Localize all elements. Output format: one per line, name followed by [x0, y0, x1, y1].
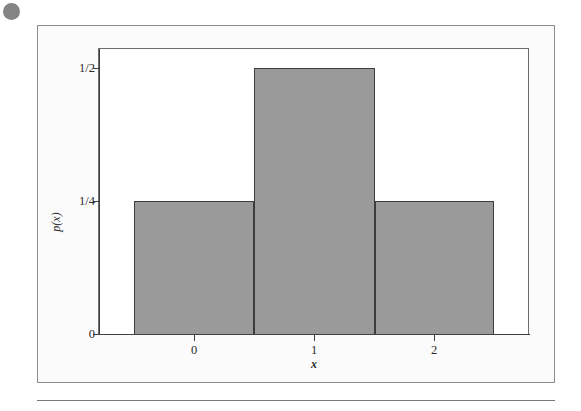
bar-x1 [254, 68, 375, 335]
x-tick-label-0: 0 [191, 344, 197, 357]
page-bottom-rule [37, 400, 555, 401]
y-axis-line [99, 49, 100, 335]
y-tick-label-quarter: 1/4 [79, 195, 95, 208]
x-tick-mark-1 [314, 334, 315, 341]
y-tick-label-zero: 0 [89, 328, 95, 341]
y-tick-label-half: 1/2 [79, 62, 95, 75]
x-axis-title: x [311, 358, 317, 370]
x-tick-mark-0 [194, 334, 195, 341]
y-axis-title: p(x) [50, 212, 62, 231]
scan-artifact-dot [3, 3, 20, 20]
x-tick-label-1: 1 [311, 344, 317, 357]
x-tick-label-2: 2 [431, 344, 437, 357]
figure-frame: p(x) 1/2 1/4 0 0 1 [37, 25, 555, 383]
bar-x0 [134, 201, 254, 335]
x-tick-mark-2 [434, 334, 435, 341]
plot-panel: 1/2 1/4 0 0 1 2 x [98, 48, 529, 335]
bar-x2 [375, 201, 494, 335]
